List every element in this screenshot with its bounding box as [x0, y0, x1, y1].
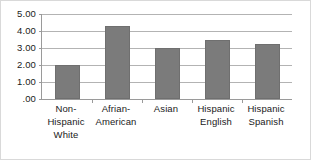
y-axis-tick-mark: [39, 82, 42, 83]
x-axis-category-label-line: White: [41, 128, 91, 141]
x-axis-category-label: HispanicSpanish: [241, 102, 291, 128]
x-axis-category-label: Asian: [141, 102, 191, 115]
y-axis-tick-label: 2.00: [17, 60, 36, 70]
plot-area: [41, 14, 292, 100]
y-axis-tick-label: 1.00: [17, 77, 36, 87]
x-axis-category-label-line: Asian: [141, 102, 191, 115]
bar: [155, 48, 180, 99]
x-axis-category-label: Afrian-American: [91, 102, 141, 128]
x-axis-category-label-line: Afrian-: [91, 102, 141, 115]
x-axis-category-label-line: Hispanic: [41, 115, 91, 128]
y-axis-tick-mark: [39, 14, 42, 15]
y-axis-tick-label: .00: [22, 94, 36, 104]
x-axis-category-label-line: English: [191, 115, 241, 128]
y-axis-tick-label: 5.00: [17, 9, 36, 19]
bar: [205, 40, 230, 99]
x-axis-category-label: Non-HispanicWhite: [41, 102, 91, 141]
x-axis-category-label-line: Non-: [41, 102, 91, 115]
x-axis-category-label-group: Non-HispanicWhiteAfrian-AmericanAsianHis…: [41, 102, 291, 158]
y-axis-tick-label: 4.00: [17, 26, 36, 36]
x-axis-category-label: HispanicEnglish: [191, 102, 241, 128]
bar: [55, 65, 80, 99]
bar-chart-figure: 5.004.003.002.001.00.00 Non-HispanicWhit…: [0, 0, 311, 160]
y-axis-tick-label-group: 5.004.003.002.001.00.00: [1, 1, 39, 105]
x-axis-category-label-line: Hispanic: [191, 102, 241, 115]
y-axis-tick-label: 3.00: [17, 43, 36, 53]
x-axis-category-label-line: Spanish: [241, 115, 291, 128]
y-axis-tick-mark: [39, 65, 42, 66]
x-axis-category-label-line: Hispanic: [241, 102, 291, 115]
y-axis-tick-mark: [39, 99, 42, 100]
y-axis-tick-mark: [39, 31, 42, 32]
bars-group: [42, 14, 292, 99]
x-axis-category-label-line: American: [91, 115, 141, 128]
y-axis-tick-mark: [39, 48, 42, 49]
bar: [255, 44, 280, 99]
bar: [105, 26, 130, 99]
